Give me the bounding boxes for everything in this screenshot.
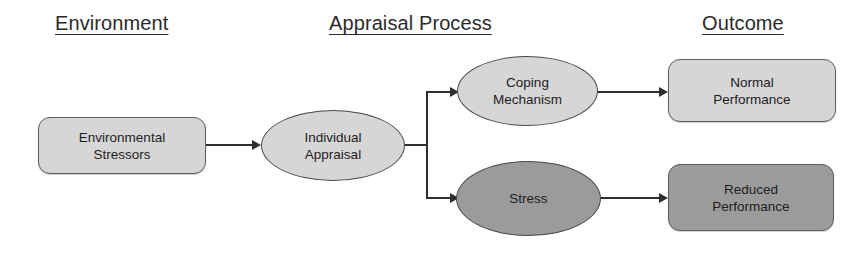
connector-environmental-stressors-to-individual-appraisal [205,144,257,146]
node-reduced-performance: Reduced Performance [668,164,834,231]
stress-appraisal-diagram: Environment Appraisal Process Outcome En… [0,0,867,253]
node-stress: Stress [456,161,601,236]
column-heading-outcome: Outcome [702,12,784,35]
node-label-reduced-performance: Reduced Performance [706,181,795,215]
arrowhead-to-normal-performance [659,87,668,97]
node-label-normal-performance: Normal Performance [707,74,796,108]
connector-stress-to-reduced-performance [599,197,664,199]
arrowhead-to-individual-appraisal [252,140,261,150]
arrowhead-to-reduced-performance [659,193,668,203]
node-environmental-stressors: Environmental Stressors [38,117,206,174]
node-coping-mechanism: Coping Mechanism [457,56,598,126]
connector-branch-vertical [426,91,428,199]
connector-individual-appraisal-stub [404,144,428,146]
column-heading-environment: Environment [55,12,168,35]
node-normal-performance: Normal Performance [668,59,836,122]
node-individual-appraisal: Individual Appraisal [261,110,405,181]
connector-coping-mechanism-to-normal-performance [596,91,664,93]
node-label-coping-mechanism: Coping Mechanism [487,74,568,108]
node-label-environmental-stressors: Environmental Stressors [73,129,171,163]
node-label-stress: Stress [503,190,553,207]
node-label-individual-appraisal: Individual Appraisal [298,129,367,163]
column-heading-appraisal-process: Appraisal Process [329,12,492,35]
